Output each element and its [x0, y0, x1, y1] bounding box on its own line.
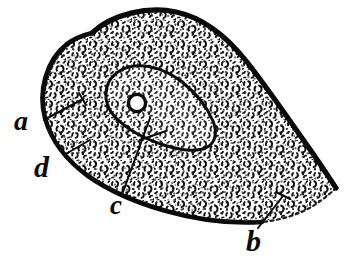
cell-illustration-figure: a d c b: [0, 0, 344, 268]
figure-label-d: d: [34, 152, 49, 182]
figure-label-b: b: [246, 226, 261, 256]
figure-label-a: a: [14, 107, 28, 135]
illustration-canvas: [0, 0, 344, 268]
nucleolus-ring: [128, 94, 145, 111]
figure-label-c: c: [110, 192, 122, 219]
